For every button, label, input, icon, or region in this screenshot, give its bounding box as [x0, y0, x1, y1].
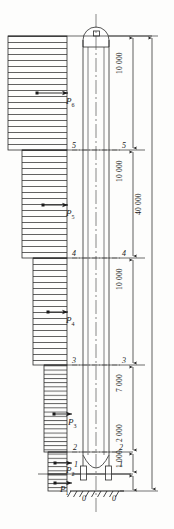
dimension-lines [109, 36, 158, 491]
drawing-canvas: P6 P5 P4 P3 P2 P1 5 4 3 2 1 0 5 4 3 2 1 … [0, 0, 174, 529]
centroid-dot-6 [36, 92, 39, 95]
centroid-dot-1 [54, 482, 57, 485]
section-label-5-left: 5 [72, 141, 76, 150]
support-box-left [81, 466, 87, 480]
wind-load-diagram [8, 36, 67, 491]
load-label-P1: P1 [60, 484, 69, 496]
chimney-elevation-drawing [0, 0, 174, 529]
section-label-1-left: 1 [74, 460, 78, 469]
dim-label-1000: 1 000 [115, 450, 124, 468]
centroid-dot-3 [53, 413, 56, 416]
load-block-3 [44, 365, 67, 452]
dim-label-10000-b: 10 000 [115, 160, 124, 182]
section-label-0-right: 0 [112, 494, 116, 503]
load-label-P3: P3 [68, 417, 77, 429]
dim-label-40000: 40 000 [134, 193, 143, 215]
section-label-3-right: 3 [122, 356, 126, 365]
section-label-4-left: 4 [72, 249, 76, 258]
dim-label-2000: 2 000 [115, 424, 124, 442]
dim-label-10000-c: 10 000 [115, 268, 124, 290]
centroid-dot-2 [54, 462, 57, 465]
load-label-P5: P5 [66, 208, 75, 220]
section-label-0-left: 0 [82, 494, 86, 503]
centroid-dot-4 [47, 311, 50, 314]
load-label-P6: P6 [66, 96, 75, 108]
centroid-dot-5 [42, 204, 45, 207]
load-label-P4: P4 [66, 315, 75, 327]
chimney-neck [94, 31, 100, 36]
section-label-4-right: 4 [122, 249, 126, 258]
load-block-4 [33, 258, 67, 365]
section-label-5-right: 5 [122, 141, 126, 150]
dim-label-10000-a: 10 000 [115, 52, 124, 74]
support-box-right [106, 466, 112, 480]
section-label-3-left: 3 [72, 356, 76, 365]
dim-label-7000: 7 000 [115, 374, 124, 392]
section-label-2-left: 2 [73, 443, 77, 452]
